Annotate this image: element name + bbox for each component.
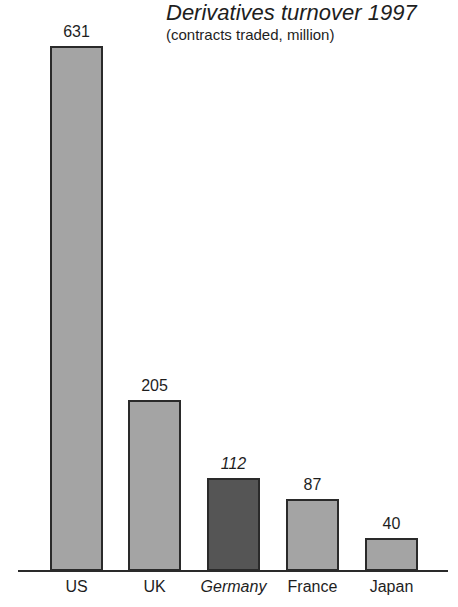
bar-japan (365, 538, 418, 571)
category-label: UK (110, 578, 200, 596)
category-label: Germany (189, 578, 279, 596)
value-label: 205 (115, 377, 195, 395)
chart-title: Derivatives turnover 1997 (166, 0, 417, 26)
category-label: France (268, 578, 358, 596)
chart-subtitle: (contracts traded, million) (166, 26, 334, 43)
bar-germany (207, 478, 260, 571)
bar-france (286, 499, 339, 571)
value-label: 112 (194, 455, 274, 473)
bar-uk (128, 400, 181, 571)
bar-us (50, 46, 103, 571)
value-label: 87 (273, 476, 353, 494)
value-label: 631 (37, 23, 117, 41)
x-axis-line (18, 570, 448, 572)
category-label: US (32, 578, 122, 596)
category-label: Japan (347, 578, 437, 596)
value-label: 40 (352, 515, 432, 533)
